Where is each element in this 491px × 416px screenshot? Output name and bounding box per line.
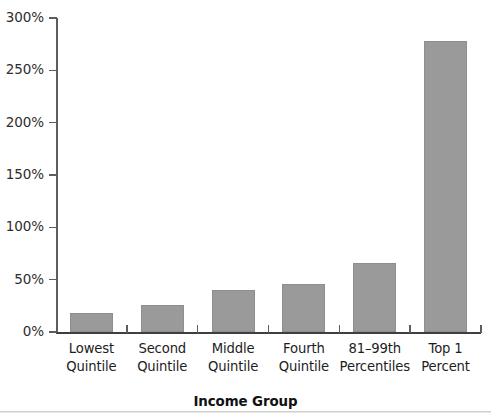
- bar: [353, 263, 396, 332]
- x-axis-tick: [268, 325, 270, 333]
- x-axis-category-label: Top 1Percent: [404, 340, 487, 375]
- y-axis-tick: [49, 331, 57, 333]
- bar: [282, 284, 325, 332]
- x-axis-tick: [126, 325, 128, 333]
- category-label-line1: Middle: [212, 341, 255, 356]
- category-label-line2: Percent: [404, 358, 487, 376]
- category-label-line1: Lowest: [69, 341, 114, 356]
- bar: [141, 305, 184, 332]
- y-axis-tick: [49, 174, 57, 176]
- y-axis-tick-label: 150%: [0, 168, 44, 182]
- y-axis-tick-label: 300%: [0, 11, 44, 25]
- y-axis-tick: [49, 227, 57, 229]
- y-axis-tick-label: 200%: [0, 116, 44, 130]
- bar-chart-figure: 0%50%100%150%200%250%300% LowestQuintile…: [0, 0, 491, 416]
- y-axis-tick: [49, 279, 57, 281]
- category-label-line1: 81–99th: [348, 341, 401, 356]
- bottom-divider-shadow: [0, 412, 491, 413]
- x-axis-tick: [409, 325, 411, 333]
- x-axis-tick: [480, 325, 482, 333]
- bar: [212, 290, 255, 332]
- category-label-line1: Second: [138, 341, 186, 356]
- x-axis-title: Income Group: [0, 394, 491, 409]
- y-axis-tick: [49, 70, 57, 72]
- y-axis-tick-label: 0%: [0, 325, 44, 339]
- bar: [70, 313, 113, 332]
- category-label-line1: Fourth: [283, 341, 325, 356]
- x-axis-tick: [339, 325, 341, 333]
- y-axis-tick-label: 250%: [0, 63, 44, 77]
- y-axis-tick: [49, 122, 57, 124]
- category-label-line1: Top 1: [429, 341, 463, 356]
- plot-area: 0%50%100%150%200%250%300% LowestQuintile…: [0, 0, 491, 390]
- y-axis-tick: [49, 17, 57, 19]
- y-axis-tick-label: 50%: [0, 273, 44, 287]
- y-axis-tick-label: 100%: [0, 220, 44, 234]
- bar: [424, 41, 467, 332]
- x-axis-tick: [197, 325, 199, 333]
